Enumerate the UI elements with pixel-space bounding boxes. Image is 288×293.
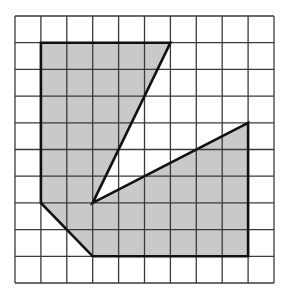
grid-figure — [0, 0, 288, 293]
